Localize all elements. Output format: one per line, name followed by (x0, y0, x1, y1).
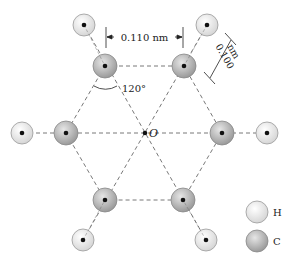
legend-carbon-swatch (246, 230, 268, 252)
legend-carbon-label: C (273, 236, 281, 247)
legend-hydrogen-swatch (246, 201, 268, 223)
legend-hydrogen-label: H (273, 207, 282, 218)
center-point (143, 131, 148, 136)
benzene-diagram: O 0.110 nm 0.100 nm 120° H C (0, 0, 288, 259)
legend: H C (246, 201, 282, 252)
center-label: O (149, 127, 158, 140)
angle-label: 120° (122, 83, 146, 94)
cc-distance-label: 0.110 nm (121, 32, 169, 43)
angle-arc (94, 86, 117, 89)
